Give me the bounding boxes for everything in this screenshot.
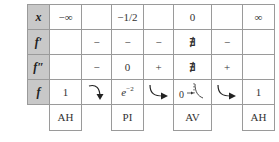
row-header-f-double-prime: f″ [28, 55, 50, 80]
row-header-f: f [28, 80, 50, 105]
f-value-cell: 1 [243, 80, 275, 105]
label-inflection-point: PI [111, 103, 144, 131]
variation-table: x −∞ −1/2 0 ∞ f′ − − − ∄ − f″ − 0 + ∄ + … [27, 4, 275, 105]
x-cell: −∞ [50, 5, 82, 30]
f-double-prime-row: f″ − 0 + ∄ + [28, 55, 275, 80]
x-row: x −∞ −1/2 0 ∞ [28, 5, 275, 30]
f-prime-row: f′ − − − ∄ − [28, 30, 275, 55]
f-value-cell: e−2 [112, 80, 144, 105]
x-cell: 0 [174, 5, 212, 30]
f-double-prime-cell: + [212, 55, 243, 80]
f-prime-cell [243, 30, 275, 55]
f-prime-cell: − [212, 30, 243, 55]
label-vertical-asymptote: AV [173, 103, 212, 131]
f-arrow-cell [82, 80, 112, 105]
arrow-down-convex-icon [215, 82, 239, 102]
f-double-prime-cell: + [144, 55, 174, 80]
f-arrow-cell [212, 80, 243, 105]
f-double-prime-cell-not-exist: ∄ [174, 55, 212, 80]
f-value-zero: 0 [179, 90, 184, 100]
row-header-x: x [28, 5, 50, 30]
arrow-down-convex-icon [147, 82, 171, 102]
f-prime-cell [50, 30, 82, 55]
x-cell [82, 5, 112, 30]
f-prime-cell: − [82, 30, 112, 55]
f-value-cell: 1 [50, 80, 82, 105]
f-prime-cell-not-exist: ∄ [174, 30, 212, 55]
label-horizontal-asymptote-right: AH [242, 103, 275, 131]
f-double-prime-cell [50, 55, 82, 80]
f-row: f 1 e−2 0 [28, 80, 275, 105]
f-double-prime-cell: − [82, 55, 112, 80]
f-zero-asymptote-cell: 0 [174, 80, 212, 105]
f-double-prime-cell: 0 [112, 55, 144, 80]
x-cell [144, 5, 174, 30]
vertical-asymptote-icon [186, 82, 206, 102]
x-cell [212, 5, 243, 30]
f-prime-cell: − [112, 30, 144, 55]
label-horizontal-asymptote-left: AH [49, 103, 82, 131]
asymptote-labels-row: AH PI AV AH [0, 103, 279, 132]
f-double-prime-cell [243, 55, 275, 80]
row-header-f-prime: f′ [28, 30, 50, 55]
f-arrow-cell [144, 80, 174, 105]
f-value-exponent: −2 [126, 85, 133, 93]
f-prime-cell: − [144, 30, 174, 55]
x-cell: ∞ [243, 5, 275, 30]
arrow-down-concave-icon [86, 82, 108, 102]
x-cell: −1/2 [112, 5, 144, 30]
